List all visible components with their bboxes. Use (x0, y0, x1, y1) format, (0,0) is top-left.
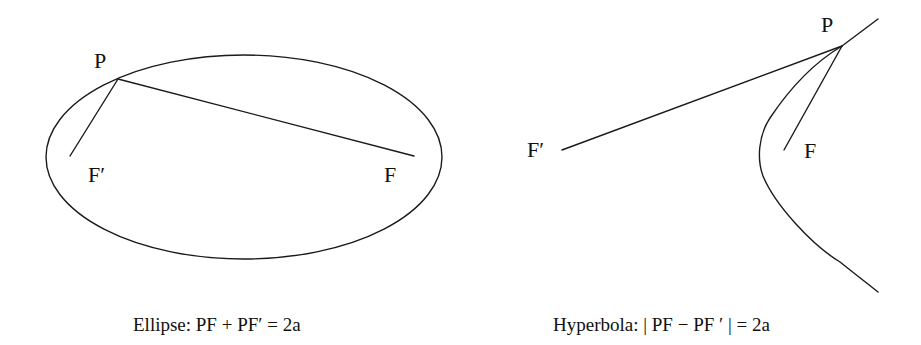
label-f-prime: F′ (527, 137, 544, 162)
ellipse-caption: Ellipse: PF + PF′ = 2a (133, 314, 301, 335)
label-f: F (804, 138, 816, 163)
segment-pf (118, 79, 414, 156)
label-p: P (94, 48, 106, 73)
segment-pf (784, 46, 842, 150)
hyperbola-curve (759, 19, 878, 292)
label-f-prime: F′ (88, 162, 105, 187)
hyperbola-caption: Hyperbola: | PF − PF ′ | = 2a (553, 314, 770, 335)
segment-pf-prime (562, 46, 842, 150)
ellipse-curve (46, 55, 442, 259)
ellipse-panel: P F′ F Ellipse: PF + PF′ = 2a (46, 48, 442, 335)
label-p: P (821, 12, 833, 37)
hyperbola-panel: P F′ F Hyperbola: | PF − PF ′ | = 2a (527, 12, 878, 335)
conic-sections-figure: P F′ F Ellipse: PF + PF′ = 2a P F′ F Hyp… (0, 0, 921, 345)
label-f: F (384, 162, 396, 187)
